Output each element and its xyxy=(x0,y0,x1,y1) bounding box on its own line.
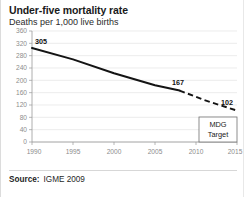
x-tick-label: 2000 xyxy=(107,148,122,155)
x-tick-label: 2010 xyxy=(189,148,204,155)
data-label-2008: 167 xyxy=(172,78,184,87)
line-chart-svg: 360 320 280 240 200 160 120 80 40 0 xyxy=(1,28,244,168)
y-tick-label: 320 xyxy=(16,40,27,47)
y-tick-label: 240 xyxy=(16,64,27,71)
y-axis-labels: 360 320 280 240 200 160 120 80 40 0 xyxy=(16,28,27,145)
chart-plot-area: 360 320 280 240 200 160 120 80 40 0 xyxy=(1,28,244,168)
source-note: Source:IGME 2009 xyxy=(9,175,85,184)
source-label: Source: xyxy=(9,175,39,184)
y-tick-label: 80 xyxy=(20,114,28,121)
page-title: Under-five mortality rate xyxy=(9,4,128,16)
data-label-2015: 102 xyxy=(221,98,233,107)
x-tickmarks xyxy=(32,142,237,145)
y-tick-label: 360 xyxy=(16,28,27,34)
data-label-1990: 305 xyxy=(35,37,47,46)
x-tick-label: 1995 xyxy=(66,148,81,155)
x-axis-labels: 1990 1995 2000 2005 2010 2015 xyxy=(27,148,243,155)
y-tick-label: 120 xyxy=(16,101,27,108)
mdg-target-line2: Target xyxy=(208,130,229,139)
y-tick-label: 280 xyxy=(16,52,27,59)
source-divider xyxy=(9,170,237,171)
source-value: IGME 2009 xyxy=(43,175,84,184)
mdg-target-callout: MDG Target xyxy=(199,117,237,142)
y-tick-label: 40 xyxy=(20,126,28,133)
x-tick-label: 1990 xyxy=(27,148,42,155)
y-tick-label: 160 xyxy=(16,89,27,96)
chart-subtitle: Deaths per 1,000 live births xyxy=(9,17,119,27)
y-tick-label: 200 xyxy=(16,77,27,84)
x-tick-label: 2015 xyxy=(228,148,243,155)
x-tick-label: 2005 xyxy=(148,148,163,155)
chart-card: Under-five mortality rate Deaths per 1,0… xyxy=(0,0,244,197)
y-tick-label: 0 xyxy=(23,138,27,145)
mdg-target-line1: MDG xyxy=(209,120,226,129)
series-observed-line xyxy=(32,48,180,91)
